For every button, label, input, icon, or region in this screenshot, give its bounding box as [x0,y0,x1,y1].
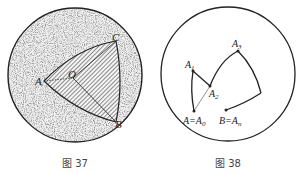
point-A0 [193,110,196,113]
caption-fig37: 图 37 [62,158,88,169]
figures-canvas: A O C B 图 37 A1 A2 A3 A=A0 B=An 图 38 [0,0,308,173]
figure-37: A O C B 图 37 [8,8,142,169]
label-C: C [112,31,120,43]
label-B: B [115,118,122,130]
label-A: A [34,75,42,87]
point-An [225,109,228,112]
figure-38: A1 A2 A3 A=A0 B=An 图 38 [161,7,295,169]
label-O: O [68,68,76,80]
caption-fig38: 图 38 [215,158,241,169]
